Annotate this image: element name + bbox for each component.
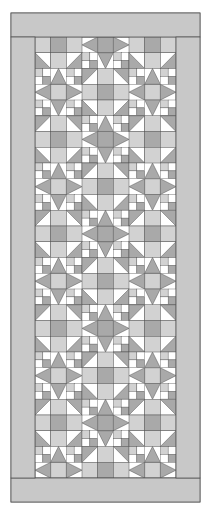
border-bottom (11, 478, 200, 502)
quilt-diagram (0, 0, 211, 509)
border-top (11, 13, 200, 37)
border-right (176, 37, 200, 478)
quilt-field (11, 13, 200, 502)
border-left (11, 37, 35, 478)
